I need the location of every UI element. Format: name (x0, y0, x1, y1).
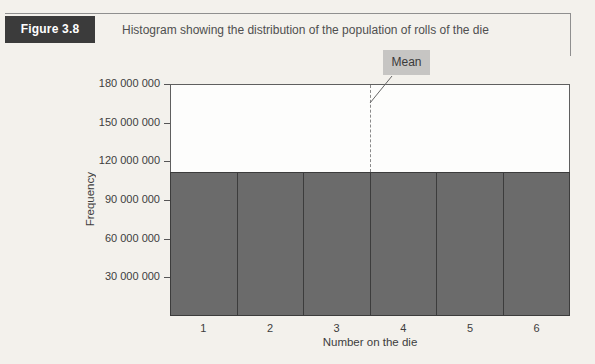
x-tick-label: 6 (522, 322, 552, 334)
y-tick-label: 90 000 000 (55, 193, 160, 205)
y-tick-mark (164, 123, 170, 124)
bar-4 (371, 173, 437, 315)
y-tick-mark (164, 84, 170, 85)
bar-1 (171, 173, 237, 315)
figure-panel: Figure 3.8 Histogram showing the distrib… (0, 0, 595, 364)
header-top-rule (5, 13, 571, 14)
mean-annotation-label: Mean (383, 50, 430, 75)
y-tick-label: 120 000 000 (55, 154, 160, 166)
bar-5 (437, 173, 503, 315)
y-tick-label: 30 000 000 (55, 270, 160, 282)
y-tick-label: 150 000 000 (55, 116, 160, 128)
figure-label: Figure 3.8 (5, 16, 95, 43)
bar-3 (304, 173, 370, 315)
x-tick-label: 2 (255, 322, 285, 334)
x-tick-label: 5 (455, 322, 485, 334)
plot-area (170, 84, 570, 316)
header-right-rule (570, 13, 571, 56)
figure-caption: Histogram showing the distribution of th… (122, 23, 489, 37)
x-tick-label: 3 (322, 322, 352, 334)
bars-container (170, 172, 570, 316)
y-tick-label: 60 000 000 (55, 232, 160, 244)
bar-2 (238, 173, 304, 315)
mean-leader-line (365, 74, 400, 106)
x-axis-title: Number on the die (170, 336, 570, 348)
x-tick-label: 4 (388, 322, 418, 334)
y-tick-mark (164, 200, 170, 201)
y-tick-mark (164, 239, 170, 240)
x-tick-label: 1 (188, 322, 218, 334)
y-tick-label: 180 000 000 (55, 77, 160, 89)
y-tick-mark (164, 277, 170, 278)
bar-6 (504, 173, 570, 315)
y-tick-mark (164, 161, 170, 162)
